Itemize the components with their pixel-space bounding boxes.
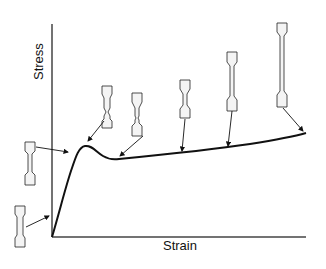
specimen-6 bbox=[227, 52, 237, 146]
specimen-1 bbox=[15, 206, 49, 247]
stress-strain-curve bbox=[52, 133, 306, 237]
specimen-5 bbox=[180, 80, 190, 151]
stress-strain-diagram bbox=[0, 0, 326, 269]
y-axis-label: Stress bbox=[31, 43, 46, 80]
specimen-4 bbox=[120, 93, 143, 156]
specimen-2 bbox=[25, 142, 68, 185]
specimen-3 bbox=[88, 86, 112, 141]
x-axis-label: Strain bbox=[163, 238, 197, 253]
specimen-7 bbox=[277, 23, 303, 131]
